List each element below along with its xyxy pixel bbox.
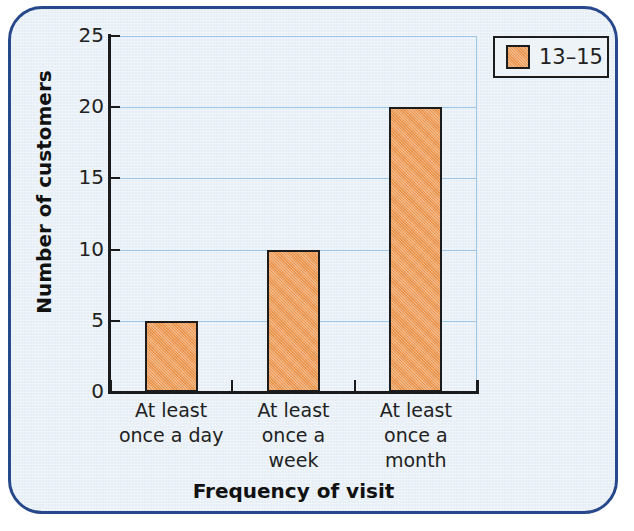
x-category-label-line: At least <box>346 398 486 423</box>
y-tick-label-20: 20 <box>70 94 104 118</box>
y-tick-25 <box>111 35 120 37</box>
y-tick-label-5: 5 <box>70 308 104 332</box>
y-tick-15 <box>111 177 120 179</box>
gridline-25 <box>110 36 477 37</box>
legend-label-13-15: 13–15 <box>539 45 603 69</box>
y-axis-title: Number of customers <box>32 42 56 342</box>
x-category-label-line: At least <box>101 398 241 423</box>
y-tick-label-0: 0 <box>70 379 104 403</box>
x-axis-title: Frequency of visit <box>110 479 477 503</box>
bar-1 <box>145 321 198 392</box>
legend-swatch-13-15 <box>506 45 530 69</box>
x-category-label-1: At leastonce a day <box>101 398 241 448</box>
y-tick-20 <box>111 106 120 108</box>
x-tick-2 <box>354 380 356 392</box>
x-category-label-line: once a <box>224 423 364 448</box>
y-tick-label-15: 15 <box>70 165 104 189</box>
y-axis-line <box>108 34 111 394</box>
bar-2 <box>267 250 320 392</box>
y-tick-0 <box>111 391 120 393</box>
y-tick-label-25: 25 <box>70 23 104 47</box>
y-tick-10 <box>111 249 120 251</box>
x-category-label-line: once a <box>346 423 486 448</box>
x-tick-1 <box>231 380 233 392</box>
x-category-label-line: once a day <box>101 423 241 448</box>
x-category-label-2: At leastonce aweek <box>224 398 364 473</box>
x-category-label-line: month <box>346 448 486 473</box>
legend: 13–15 <box>493 36 609 78</box>
chart-figure: 0510152025 At leastonce a dayAt leastonc… <box>0 0 634 531</box>
x-category-label-line: week <box>224 448 364 473</box>
x-category-label-3: At leastonce amonth <box>346 398 486 473</box>
y-tick-5 <box>111 320 120 322</box>
x-tick-3 <box>476 380 479 394</box>
x-category-label-line: At least <box>224 398 364 423</box>
y-tick-label-group: 0510152025 <box>60 0 104 531</box>
bar-3 <box>389 107 442 392</box>
y-tick-label-10: 10 <box>70 237 104 261</box>
plot-right-edge <box>476 36 477 392</box>
